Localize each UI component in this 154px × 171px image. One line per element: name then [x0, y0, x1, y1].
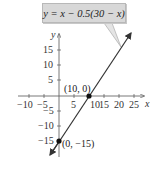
equation-callout: y = x − 0.5(30 − x) — [42, 3, 126, 23]
x-tick-label: 5 — [71, 99, 76, 110]
y-axis-label: y — [50, 29, 56, 40]
y-tick-label: −10 — [38, 120, 54, 131]
x-tick-label: −10 — [17, 99, 33, 110]
chart-canvas: −10 −5 5 10 15 20 25 x 15 10 5 −5 −10 −1… — [0, 0, 154, 171]
point-label-y-intercept: (0, −15) — [62, 138, 94, 150]
x-tick-label: 15 — [99, 99, 109, 110]
point-x-intercept — [86, 93, 91, 98]
y-tick-label: 10 — [43, 59, 53, 70]
point-label-x-intercept: (10, 0) — [64, 83, 91, 95]
x-tick-label: 25 — [129, 99, 139, 110]
x-tick-label: 20 — [114, 99, 124, 110]
y-tick-label: −5 — [43, 105, 54, 116]
y-tick-label: 15 — [43, 44, 53, 55]
function-line — [51, 33, 131, 154]
x-axis-label: x — [144, 98, 150, 109]
y-tick-label: −15 — [38, 135, 54, 146]
y-tick-label: 5 — [48, 74, 53, 85]
callout-pointer — [104, 23, 121, 47]
point-y-intercept — [56, 138, 61, 143]
